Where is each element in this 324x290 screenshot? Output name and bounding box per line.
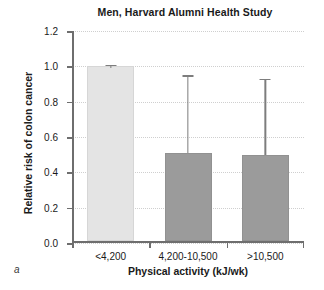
x-tick-label: 4,200-10,500	[159, 251, 218, 262]
y-tick-label: 1.0	[44, 61, 58, 72]
y-tick-label: 0.2	[44, 202, 58, 213]
y-tick-label: 1.2	[44, 26, 58, 37]
x-axis-title: Physical activity (kJ/wk)	[72, 265, 304, 277]
x-tick	[149, 243, 151, 248]
x-tick	[72, 243, 74, 248]
y-tick-label: 0.6	[44, 132, 58, 143]
x-tick-label: >10,500	[247, 251, 283, 262]
error-bar-cap	[260, 79, 271, 80]
y-axis-title: Relative risk of colon cancer	[22, 43, 34, 243]
y-tick-label: 0.8	[44, 96, 58, 107]
chart-figure: Men, Harvard Alumni Health Study Relativ…	[0, 0, 324, 290]
x-tick	[303, 243, 305, 248]
gridline	[72, 243, 304, 244]
panel-label: a	[14, 264, 20, 275]
error-bar-cap	[105, 65, 116, 66]
x-tick	[227, 243, 229, 248]
gridline	[72, 31, 304, 32]
y-tick-label: 0.0	[44, 238, 58, 249]
x-tick-label: <4,200	[95, 251, 126, 262]
error-bar	[265, 79, 266, 155]
chart-title: Men, Harvard Alumni Health Study	[60, 6, 310, 18]
bar[interactable]	[165, 153, 212, 242]
bar[interactable]	[242, 155, 289, 242]
x-axis-line	[72, 241, 304, 243]
y-axis-line	[72, 31, 74, 243]
plot-area: 0.00.20.40.60.81.01.2 <4,2004,200-10,500…	[72, 31, 304, 243]
y-tick-label: 0.4	[44, 167, 58, 178]
error-bar-cap	[183, 75, 194, 76]
bar[interactable]	[87, 66, 134, 241]
error-bar	[187, 75, 188, 153]
